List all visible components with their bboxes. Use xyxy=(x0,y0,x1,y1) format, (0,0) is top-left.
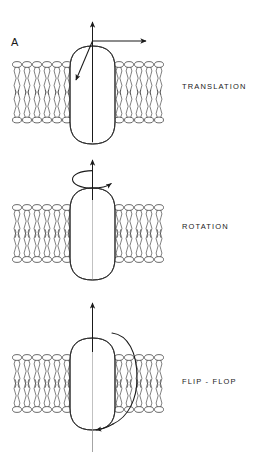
panel-letter: A xyxy=(11,36,19,48)
membrane-protein-rotation xyxy=(70,188,115,280)
label-flip-flop: FLIP - FLOP xyxy=(182,377,237,386)
label-translation: TRANSLATION xyxy=(182,82,247,91)
label-rotation: ROTATION xyxy=(182,222,229,231)
